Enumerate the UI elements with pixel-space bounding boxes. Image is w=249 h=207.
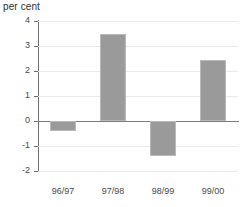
bar — [150, 121, 176, 156]
y-axis-tick — [34, 21, 38, 22]
y-axis-tick-label: -2 — [8, 165, 30, 175]
y-axis-tick-label: -1 — [8, 140, 30, 150]
y-axis-tick-label: 3 — [8, 40, 30, 50]
y-axis-tick — [34, 146, 38, 147]
plot-area — [38, 21, 238, 171]
bar — [50, 121, 76, 131]
bars-group — [38, 21, 238, 171]
y-axis-tick — [34, 121, 38, 122]
bar-chart: per cent 43210-1-2 96/9797/9898/9999/00 — [0, 0, 249, 207]
bar — [100, 34, 126, 122]
gridline — [38, 171, 238, 172]
x-axis-tick-label: 98/99 — [138, 186, 188, 196]
chart-title: per cent — [3, 1, 40, 12]
x-axis-tick-label: 97/98 — [88, 186, 138, 196]
y-axis-tick — [34, 171, 38, 172]
y-axis-tick-label: 2 — [8, 65, 30, 75]
y-axis-tick — [34, 46, 38, 47]
y-axis-tick-label: 4 — [8, 15, 30, 25]
y-axis-tick-label: 1 — [8, 90, 30, 100]
x-axis-tick-label: 96/97 — [38, 186, 88, 196]
y-axis-tick — [34, 96, 38, 97]
y-axis-tick-label: 0 — [8, 115, 30, 125]
y-axis-tick — [34, 71, 38, 72]
bar — [200, 60, 226, 121]
x-axis-tick-label: 99/00 — [188, 186, 238, 196]
